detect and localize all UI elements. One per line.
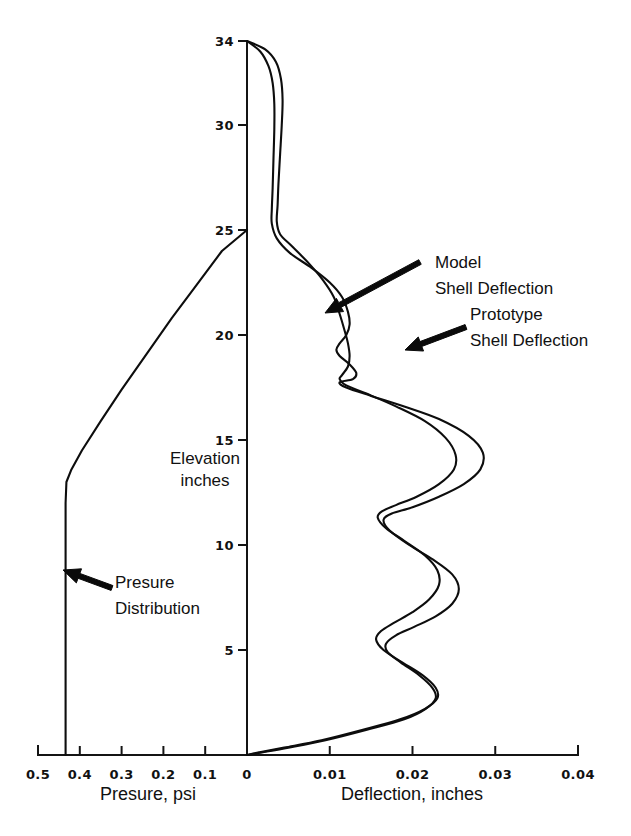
bottom-axis-line: [38, 746, 578, 755]
pressure-annotation-line1: Presure: [115, 573, 175, 592]
deflection-tick-label-2: 0.02: [396, 767, 430, 782]
model-annotation-arrow: [325, 260, 421, 313]
series-curve-presure-distribution: [66, 230, 247, 755]
series-curve-model-shell-deflection: [247, 41, 456, 755]
elevation-tick-label-0: 5: [225, 643, 234, 658]
elevation-tick-label-1: 10: [215, 538, 234, 553]
pressure-annotation-arrow: [63, 569, 113, 591]
model-annotation-line1: Model: [435, 253, 481, 272]
pressure-tick-label-2: 0.3: [109, 767, 133, 782]
elevation-tick-label-6: 34: [215, 34, 234, 49]
pressure-tick-label-5: 0: [242, 767, 251, 782]
prototype-annotation-arrow: [405, 325, 467, 351]
deflection-tick-label-3: 0.03: [478, 767, 512, 782]
prototype-annotation-line2: Shell Deflection: [470, 331, 588, 350]
elevation-axis-label-line1: Elevation: [170, 449, 240, 468]
elevation-tick-label-5: 30: [215, 118, 234, 133]
deflection-tick-label-4: 0.04: [561, 767, 595, 782]
pressure-tick-label-0: 0.5: [26, 767, 50, 782]
series-curves: [66, 41, 484, 755]
model-annotation-line2: Shell Deflection: [435, 279, 553, 298]
deflection-tick-labels: 0.010.020.030.04: [313, 767, 595, 782]
pressure-annotation-line2: Distribution: [115, 599, 200, 618]
annotation-arrows: [63, 260, 467, 591]
elevation-tick-labels: 5101520253034: [215, 34, 234, 658]
elevation-tick-label-2: 15: [215, 433, 234, 448]
pressure-tick-label-3: 0.2: [151, 767, 175, 782]
deflection-pressure-chart: 0.50.40.30.20.10 0.010.020.030.04 510152…: [0, 0, 631, 836]
elevation-tick-label-3: 20: [215, 328, 234, 343]
pressure-axis-title: Presure, psi: [100, 784, 196, 804]
chart-container: 0.50.40.30.20.10 0.010.020.030.04 510152…: [0, 0, 631, 836]
elevation-tick-label-4: 25: [215, 223, 234, 238]
elevation-axis-label-line2: inches: [180, 471, 229, 490]
deflection-tick-label-1: 0.01: [313, 767, 347, 782]
deflection-axis-title: Deflection, inches: [341, 784, 483, 804]
prototype-annotation-line1: Prototype: [470, 305, 543, 324]
pressure-tick-label-1: 0.4: [68, 767, 92, 782]
pressure-tick-labels: 0.50.40.30.20.10: [26, 767, 252, 782]
axis-group: [38, 41, 578, 755]
series-curve-prototype-shell-deflection: [247, 41, 484, 755]
pressure-tick-label-4: 0.1: [193, 767, 217, 782]
